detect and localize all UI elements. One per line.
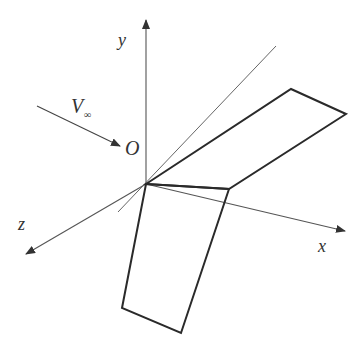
z-axis-label: z [17,214,25,234]
origin-label: O [125,137,139,159]
y-axis-label: y [116,30,126,50]
wing-diagram: y x z O V ∞ [0,0,362,356]
x-axis-label: x [317,236,326,256]
x-axis [146,184,345,231]
freestream-subscript: ∞ [84,109,91,120]
wing-lower-panel [122,184,229,333]
wing-upper-panel [146,89,346,189]
z-axis [26,184,146,254]
